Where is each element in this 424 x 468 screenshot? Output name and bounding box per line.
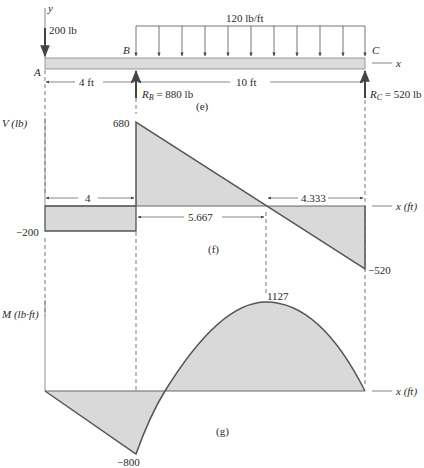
point-b-label: B bbox=[123, 44, 130, 56]
shear-left-label: −200 bbox=[16, 226, 39, 238]
point-load-label: 200 lb bbox=[49, 24, 77, 36]
point-a-label: A bbox=[34, 66, 41, 78]
y-axis-label: y bbox=[48, 2, 53, 14]
span-bc-label: 10 ft bbox=[236, 76, 256, 88]
figure-label-e: (e) bbox=[196, 100, 208, 112]
dim-4-label: 4 bbox=[85, 192, 91, 204]
shear-y-label: V (lb) bbox=[2, 117, 27, 129]
dim-4333-label: 4.333 bbox=[301, 192, 326, 204]
reaction-b-label: RB = 880 lb bbox=[142, 88, 193, 104]
beam-diagram bbox=[45, 8, 392, 98]
span-ab-label: 4 ft bbox=[79, 76, 94, 88]
beam bbox=[45, 58, 365, 69]
distributed-load-label: 120 lb/ft bbox=[226, 12, 264, 24]
x-axis-label: x bbox=[396, 57, 401, 69]
shear-right-label: −520 bbox=[368, 264, 391, 276]
distributed-load-arrows bbox=[136, 26, 365, 56]
dim-5667-label: 5.667 bbox=[188, 211, 213, 223]
moment-x-label: x (ft) bbox=[396, 385, 417, 397]
moment-max-label: 1127 bbox=[267, 290, 289, 302]
reaction-c-label: RC = 520 lb bbox=[370, 88, 422, 104]
moment-min-label: −800 bbox=[117, 456, 140, 468]
shear-max-label: 680 bbox=[113, 117, 130, 129]
shear-x-label: x (ft) bbox=[396, 200, 417, 212]
point-c-label: C bbox=[372, 44, 379, 56]
figure-label-g: (g) bbox=[216, 425, 229, 437]
moment-y-label: M (lb·ft) bbox=[2, 308, 39, 320]
figure-label-f: (f) bbox=[208, 243, 219, 255]
